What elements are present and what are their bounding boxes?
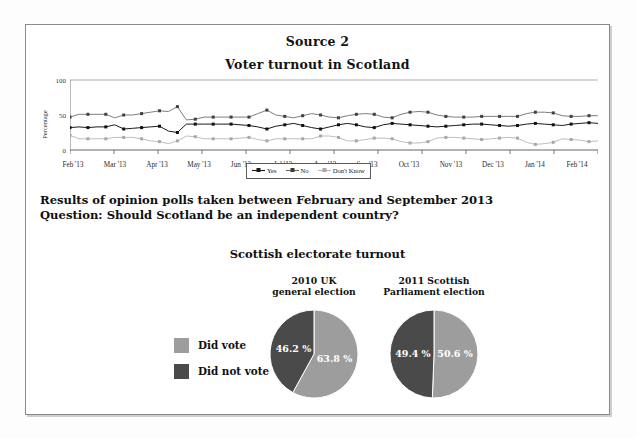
pie-caption-1-line1: 2011 Scottish bbox=[374, 275, 494, 286]
x-tick-label: Jan '14 bbox=[512, 161, 558, 169]
pie-value-label: 50.6 % bbox=[437, 348, 472, 359]
page-background: Source 2 Voter turnout in Scotland Perce… bbox=[0, 0, 637, 438]
line-chart-title: Voter turnout in Scotland bbox=[26, 57, 609, 72]
pie-legend: Did vote Did not vote bbox=[174, 332, 304, 384]
line-series-yes bbox=[70, 121, 598, 134]
x-tick-label: May '13 bbox=[176, 161, 222, 169]
y-axis-title: Percentage bbox=[41, 95, 48, 155]
line-series-don-t-know bbox=[70, 134, 598, 146]
x-tick-label: Feb '14 bbox=[554, 161, 600, 169]
legend-label-yes: Yes bbox=[267, 167, 277, 174]
pie-legend-item-did-vote[interactable]: Did vote bbox=[174, 332, 304, 358]
source-panel: Source 2 Voter turnout in Scotland Perce… bbox=[25, 24, 610, 415]
pie-caption-0-line1: 2010 UK bbox=[254, 275, 374, 286]
y-tick-100: 100 bbox=[44, 77, 66, 85]
legend-label-dont-know: Don't Know bbox=[333, 167, 365, 174]
legend-item-yes[interactable]: Yes bbox=[252, 167, 277, 174]
swatch-did-vote bbox=[174, 338, 189, 353]
pie-caption-0-line2: general election bbox=[254, 286, 374, 297]
x-tick-label: Nov '13 bbox=[428, 161, 474, 169]
pie-caption-1: 2011 Scottish Parliament election bbox=[374, 275, 494, 297]
x-tick-label: Apr '13 bbox=[134, 161, 180, 169]
swatch-did-not-vote bbox=[174, 364, 189, 379]
pie-legend-item-did-not-vote[interactable]: Did not vote bbox=[174, 358, 304, 384]
legend-label-no: No bbox=[301, 167, 309, 174]
legend-marker-dont-know bbox=[318, 167, 331, 174]
pie-chart-2011-scottish-parliament-election: 50.6 %49.4 % bbox=[384, 306, 484, 406]
x-tick-label: Oct '13 bbox=[386, 161, 432, 169]
y-tick-50: 50 bbox=[44, 112, 66, 120]
pie-legend-label-did-vote: Did vote bbox=[198, 339, 246, 351]
pie-value-label: 49.4 % bbox=[395, 348, 430, 359]
line-series-no bbox=[70, 105, 598, 121]
pie-legend-label-did-not-vote: Did not vote bbox=[198, 365, 269, 377]
pie-caption-0: 2010 UK general election bbox=[254, 275, 374, 297]
poll-description: Results of opinion polls taken between F… bbox=[40, 193, 560, 223]
legend-item-dont-know[interactable]: Don't Know bbox=[318, 167, 365, 174]
legend-marker-yes bbox=[252, 167, 265, 174]
x-tick-label: Mar '13 bbox=[92, 161, 138, 169]
line-plot-area bbox=[70, 77, 598, 157]
x-tick-label: Dec '13 bbox=[470, 161, 516, 169]
legend-marker-no bbox=[286, 167, 299, 174]
source-title: Source 2 bbox=[26, 34, 609, 49]
poll-line-2: Question: Should Scotland be an independ… bbox=[40, 208, 560, 223]
x-tick-label: Feb '13 bbox=[50, 161, 96, 169]
y-tick-0: 0 bbox=[44, 147, 66, 155]
pie-value-label: 63.8 % bbox=[317, 353, 352, 364]
pie-section-title: Scottish electorate turnout bbox=[26, 247, 609, 261]
line-chart-legend: Yes No Don't Know bbox=[246, 163, 371, 179]
legend-item-no[interactable]: No bbox=[286, 167, 309, 174]
poll-line-1: Results of opinion polls taken between F… bbox=[40, 193, 560, 208]
pie-caption-1-line2: Parliament election bbox=[374, 286, 494, 297]
